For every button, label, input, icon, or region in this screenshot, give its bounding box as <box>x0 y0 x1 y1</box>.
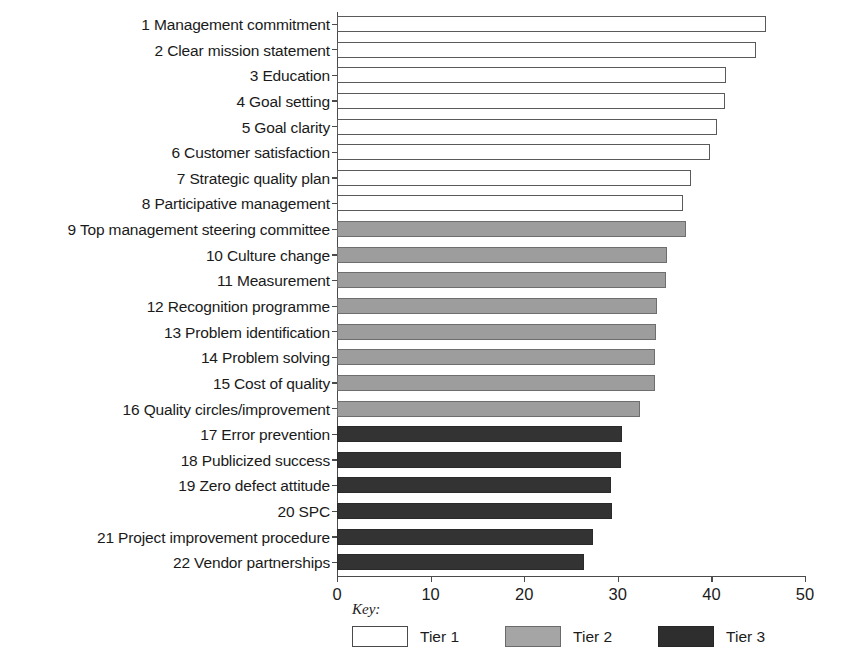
category-label-text: 22 Vendor partnerships <box>173 550 330 576</box>
category-label-text: 13 Problem identification <box>164 320 330 346</box>
bar-row <box>337 320 805 346</box>
category-label: 2 Clear mission statement <box>0 38 330 64</box>
bar <box>337 195 683 211</box>
category-label: 21 Project improvement procedure <box>0 525 330 551</box>
category-label-text: 6 Customer satisfaction <box>171 140 330 166</box>
bar-row <box>337 371 805 397</box>
legend-label: Tier 3 <box>726 628 765 646</box>
bar <box>337 144 710 160</box>
bar-row <box>337 499 805 525</box>
bar-row <box>337 191 805 217</box>
category-label: 10 Culture change <box>0 243 330 269</box>
category-label-text: 17 Error prevention <box>200 422 330 448</box>
bar <box>337 529 593 545</box>
legend-title: Key: <box>352 601 380 618</box>
bar-row <box>337 140 805 166</box>
category-label-text: 2 Clear mission statement <box>155 38 330 64</box>
bar <box>337 503 612 519</box>
legend-item: Tier 1 <box>352 626 459 647</box>
bar <box>337 298 657 314</box>
bar-row <box>337 268 805 294</box>
category-label: 17 Error prevention <box>0 422 330 448</box>
legend-item: Tier 2 <box>505 626 612 647</box>
category-label: 4 Goal setting <box>0 89 330 115</box>
legend-label: Tier 2 <box>573 628 612 646</box>
x-axis-tick <box>805 576 806 582</box>
bar-row <box>337 63 805 89</box>
category-label: 9 Top management steering committee <box>0 217 330 243</box>
bar-chart: 1 Management commitment2 Clear mission s… <box>0 0 842 668</box>
legend-swatch <box>352 626 408 647</box>
x-axis-tick <box>431 576 432 582</box>
category-label-text: 1 Management commitment <box>141 12 330 38</box>
legend: Key: Tier 1Tier 2Tier 3 <box>352 601 812 663</box>
category-label-text: 11 Measurement <box>217 268 330 294</box>
x-axis-tick-label: 0 <box>332 584 341 604</box>
category-label: 1 Management commitment <box>0 12 330 38</box>
category-label: 5 Goal clarity <box>0 115 330 141</box>
x-axis-line <box>337 576 805 577</box>
category-label-text: 9 Top management steering committee <box>68 217 330 243</box>
bar <box>337 16 766 32</box>
category-label: 19 Zero defect attitude <box>0 473 330 499</box>
category-label-text: 7 Strategic quality plan <box>177 166 330 192</box>
bar-row <box>337 217 805 243</box>
category-label: 20 SPC <box>0 499 330 525</box>
category-label-text: 20 SPC <box>277 499 330 525</box>
category-label: 14 Problem solving <box>0 345 330 371</box>
category-label-text: 4 Goal setting <box>236 89 330 115</box>
bar-row <box>337 550 805 576</box>
legend-label: Tier 1 <box>420 628 459 646</box>
bar-row <box>337 115 805 141</box>
bar <box>337 221 686 237</box>
bar <box>337 401 640 417</box>
category-label-text: 8 Participative management <box>142 191 330 217</box>
category-label-text: 14 Problem solving <box>201 345 330 371</box>
category-label: 15 Cost of quality <box>0 371 330 397</box>
bar <box>337 67 726 83</box>
category-label-text: 10 Culture change <box>206 243 330 269</box>
bar <box>337 375 655 391</box>
bar <box>337 170 691 186</box>
category-label: 12 Recognition programme <box>0 294 330 320</box>
category-label-text: 3 Education <box>250 63 330 89</box>
category-label: 7 Strategic quality plan <box>0 166 330 192</box>
bar-row <box>337 473 805 499</box>
category-label: 22 Vendor partnerships <box>0 550 330 576</box>
bar-row <box>337 397 805 423</box>
category-label: 16 Quality circles/improvement <box>0 397 330 423</box>
legend-swatch <box>658 626 714 647</box>
x-axis-tick <box>618 576 619 582</box>
category-label: 3 Education <box>0 63 330 89</box>
bar <box>337 349 655 365</box>
bar-row <box>337 345 805 371</box>
bar <box>337 272 666 288</box>
x-axis-tick <box>711 576 712 582</box>
bar <box>337 247 667 263</box>
category-label-text: 12 Recognition programme <box>147 294 330 320</box>
legend-item: Tier 3 <box>658 626 765 647</box>
category-label: 11 Measurement <box>0 268 330 294</box>
bar-row <box>337 422 805 448</box>
category-label-text: 16 Quality circles/improvement <box>123 397 330 423</box>
bar-row <box>337 525 805 551</box>
legend-swatch <box>505 626 561 647</box>
plot-area: 01020304050 <box>337 12 805 576</box>
bar <box>337 477 611 493</box>
bar-row <box>337 448 805 474</box>
legend-items: Tier 1Tier 2Tier 3 <box>352 626 811 647</box>
category-label-text: 21 Project improvement procedure <box>97 525 330 551</box>
bar <box>337 554 584 570</box>
bar-row <box>337 12 805 38</box>
category-label: 18 Publicized success <box>0 448 330 474</box>
bar-row <box>337 38 805 64</box>
category-label: 13 Problem identification <box>0 320 330 346</box>
bar-row <box>337 166 805 192</box>
category-label-text: 19 Zero defect attitude <box>178 473 330 499</box>
bar <box>337 452 621 468</box>
bar <box>337 324 656 340</box>
bar <box>337 93 725 109</box>
bar <box>337 42 756 58</box>
bar-row <box>337 89 805 115</box>
bar-row <box>337 294 805 320</box>
